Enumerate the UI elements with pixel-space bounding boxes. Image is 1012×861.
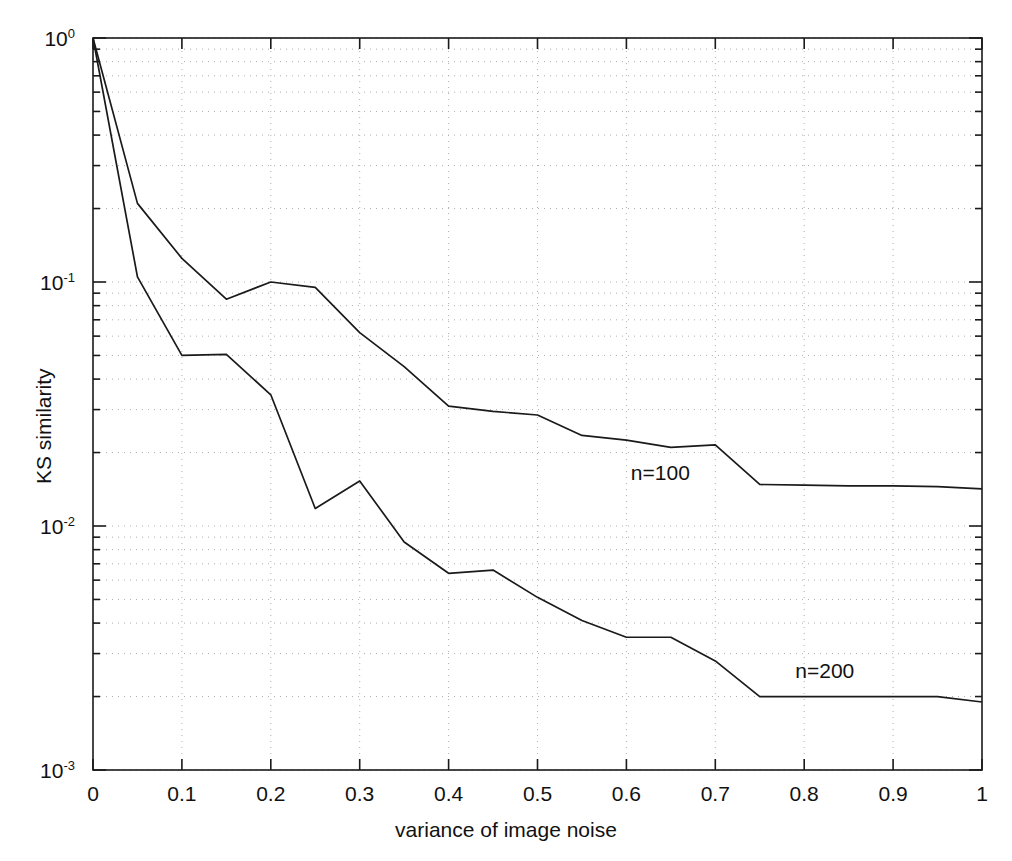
y-tick-mantissa: 10 bbox=[40, 759, 63, 782]
y-tick-exponent: -3 bbox=[63, 758, 75, 773]
grid-minor-lines bbox=[94, 49, 981, 696]
x-tick-label-0: 0 bbox=[87, 783, 99, 804]
y-tick-mantissa: 10 bbox=[40, 271, 63, 294]
chart-figure: 10010-110-210-3 00.10.20.30.40.50.60.70.… bbox=[0, 0, 1012, 861]
plot-canvas bbox=[0, 0, 1012, 861]
y-tick-label-0: 100 bbox=[0, 28, 75, 49]
x-tick-label-5: 0.5 bbox=[523, 783, 552, 804]
y-tick-mantissa: 10 bbox=[44, 27, 67, 50]
x-tick-label-1: 0.1 bbox=[167, 783, 196, 804]
y-tick-exponent: -2 bbox=[63, 514, 75, 529]
y-tick-label-2: 10-2 bbox=[0, 516, 75, 537]
series-annotation-n100: n=100 bbox=[631, 462, 690, 483]
x-tick-label-2: 0.2 bbox=[256, 783, 285, 804]
x-tick-label-8: 0.8 bbox=[790, 783, 819, 804]
y-tick-exponent: 0 bbox=[68, 26, 75, 41]
y-tick-exponent: -1 bbox=[63, 270, 75, 285]
x-tick-label-10: 1 bbox=[976, 783, 988, 804]
y-tick-label-3: 10-3 bbox=[0, 760, 75, 781]
x-tick-label-9: 0.9 bbox=[878, 783, 907, 804]
y-tick-label-1: 10-1 bbox=[0, 272, 75, 293]
x-axis-title: variance of image noise bbox=[0, 818, 1012, 842]
series-annotation-n200: n=200 bbox=[795, 660, 854, 681]
x-tick-label-6: 0.6 bbox=[612, 783, 641, 804]
y-axis-title: KS similarity bbox=[32, 368, 56, 484]
x-tick-label-4: 0.4 bbox=[434, 783, 463, 804]
x-tick-label-7: 0.7 bbox=[701, 783, 730, 804]
x-tick-label-3: 0.3 bbox=[345, 783, 374, 804]
y-tick-mantissa: 10 bbox=[40, 515, 63, 538]
